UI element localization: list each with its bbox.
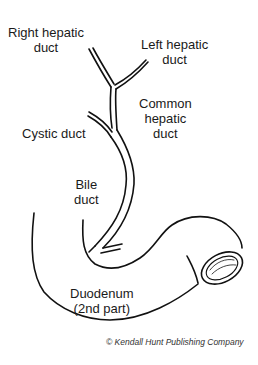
label-left-hepatic-duct: Left hepatic duct xyxy=(141,37,208,67)
label-line: Right hepatic xyxy=(8,25,84,40)
label-line: Bile xyxy=(74,177,99,192)
label-common-hepatic-duct: Common hepatic duct xyxy=(139,96,192,141)
label-line: hepatic xyxy=(139,111,192,126)
label-right-hepatic-duct: Right hepatic duct xyxy=(8,25,84,55)
right-hepatic-duct-shape xyxy=(89,48,114,87)
duodenum-shape xyxy=(32,213,242,320)
label-line: duct xyxy=(139,126,192,141)
label-line: duct xyxy=(141,52,208,67)
common-hepatic-duct-shape xyxy=(110,87,117,130)
label-line: (2nd part) xyxy=(70,301,134,316)
label-line: Common xyxy=(139,96,192,111)
label-cystic-duct: Cystic duct xyxy=(22,126,86,141)
label-line: duct xyxy=(74,192,99,207)
label-line: Duodenum xyxy=(70,286,134,301)
duodenum-opening-shape xyxy=(196,245,248,290)
label-line: Left hepatic xyxy=(141,37,208,52)
copyright-credit: © Kendall Hunt Publishing Company xyxy=(106,337,244,347)
label-duodenum: Duodenum (2nd part) xyxy=(70,286,134,316)
label-line: Cystic duct xyxy=(22,126,86,141)
cystic-duct-shape xyxy=(88,112,112,137)
label-bile-duct: Bile duct xyxy=(74,177,99,207)
label-line: duct xyxy=(8,40,84,55)
